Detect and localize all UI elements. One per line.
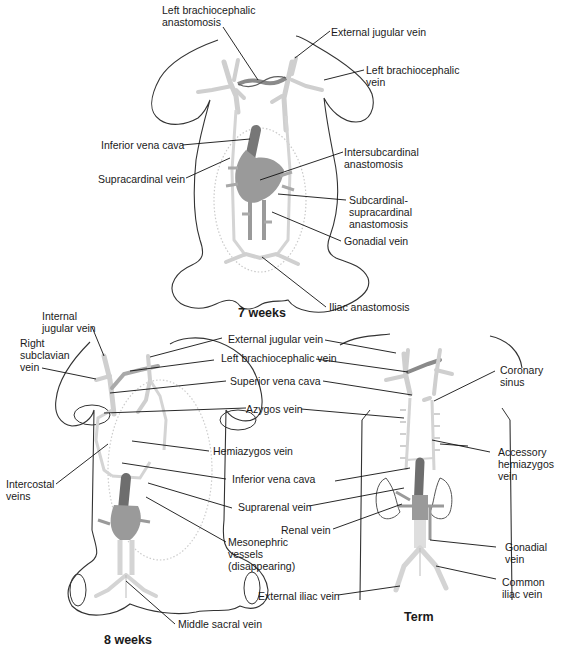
label-left-brachiocephalic-vein-7wk: Left brachiocephalic vein bbox=[366, 64, 459, 88]
label-hemiazygos-vein: Hemiazygos vein bbox=[213, 445, 293, 457]
label-external-jugular-vein: External jugular vein bbox=[228, 333, 323, 345]
label-mesonephric-vessels: Mesonephric vessels (disappearing) bbox=[228, 536, 295, 572]
label-left-brachiocephalic-anastomosis: Left brachiocephalic anastomosis bbox=[162, 4, 255, 28]
label-external-iliac-vein: External iliac vein bbox=[258, 590, 340, 602]
label-gonadial-vein-7wk: Gonadial vein bbox=[344, 235, 408, 247]
stage-label-8-weeks: 8 weeks bbox=[104, 633, 152, 647]
label-azygos-vein: Azygos vein bbox=[246, 403, 303, 415]
kidney-left bbox=[430, 478, 452, 519]
label-iliac-anastomosis: Iliac anastomosis bbox=[329, 301, 410, 313]
label-left-brachiocephalic-vein: Left brachiocephalic vein bbox=[221, 352, 337, 364]
label-suprarenal-vein: Suprarenal vein bbox=[238, 501, 312, 513]
label-inferior-vena-cava-7wk: Inferior vena cava bbox=[101, 139, 184, 151]
label-gonadial-vein-term: Gonadial vein bbox=[505, 541, 547, 565]
label-coronary-sinus: Coronary sinus bbox=[500, 364, 543, 388]
leader-lines bbox=[42, 27, 496, 624]
term-body bbox=[340, 334, 522, 600]
stage-label-7-weeks: 7 weeks bbox=[238, 306, 286, 320]
label-intercostal-veins: Intercostal veins bbox=[6, 478, 54, 502]
label-right-subclavian-vein: Right subclavian vein bbox=[20, 337, 70, 373]
label-subcardinal-supracardinal-anastomosis: Subcardinal- supracardinal anastomosis bbox=[349, 194, 412, 230]
label-middle-sacral-vein: Middle sacral vein bbox=[178, 618, 262, 630]
label-renal-vein: Renal vein bbox=[281, 524, 331, 536]
kidney-right bbox=[376, 478, 400, 519]
label-common-iliac-vein: Common iliac vein bbox=[502, 576, 545, 600]
label-external-jugular-vein-7wk: External jugular vein bbox=[331, 26, 426, 38]
label-internal-jugular-vein: Internal jugular vein bbox=[42, 310, 96, 334]
label-superior-vena-cava: Superior vena cava bbox=[230, 375, 320, 387]
label-intersubcardinal-anastomosis: Intersubcardinal anastomosis bbox=[344, 146, 419, 170]
stage-label-term: Term bbox=[404, 610, 434, 624]
label-inferior-vena-cava: Inferior vena cava bbox=[232, 473, 315, 485]
label-accessory-hemiazygos-vein: Accessory hemiazygos vein bbox=[498, 446, 554, 482]
label-supracardinal-vein: Supracardinal vein bbox=[98, 173, 185, 185]
